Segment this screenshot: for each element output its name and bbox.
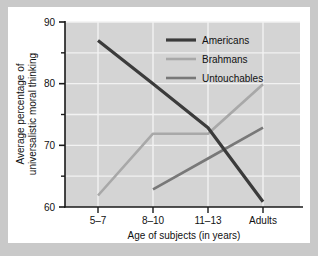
x-tick-label-5-7: 5–7 [90, 215, 107, 226]
y-axis-title-line2: universalistic moral thinking [27, 53, 38, 175]
line-chart: 60 70 80 90 5–7 8–10 11–13 Adults Age of… [8, 7, 310, 243]
x-tick-label-adults: Adults [249, 215, 277, 226]
figure-root: 60 70 80 90 5–7 8–10 11–13 Adults Age of… [0, 0, 318, 256]
y-tick-label-90: 90 [44, 17, 56, 28]
legend-label-americans: Americans [202, 35, 249, 46]
legend-label-untouchables: Untouchables [202, 73, 263, 84]
y-axis-title-line1: Average percentage of [15, 63, 26, 164]
x-tick-label-8-10: 8–10 [142, 215, 165, 226]
x-axis-ticks [98, 207, 263, 213]
x-tick-label-11-13: 11–13 [194, 215, 222, 226]
figure-card: 60 70 80 90 5–7 8–10 11–13 Adults Age of… [8, 7, 310, 243]
legend-label-brahmans: Brahmans [202, 54, 248, 65]
x-axis-title: Age of subjects (in years) [128, 230, 241, 241]
y-tick-label-70: 70 [44, 140, 56, 151]
y-tick-label-60: 60 [44, 202, 56, 213]
y-tick-label-80: 80 [44, 78, 56, 89]
